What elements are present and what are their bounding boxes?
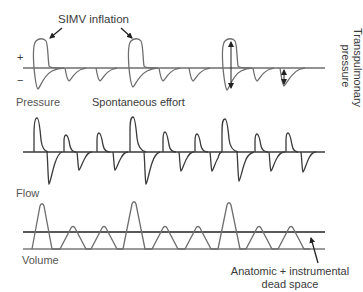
dead-space-pointer-arrow [311,238,318,263]
flow-trace [23,117,325,184]
volume-label: Volume [22,255,59,266]
pressure-label: Pressure [16,97,60,108]
spontaneous-dip-3 [159,68,180,81]
ventilator-waveform-diagram [0,0,363,292]
transpulmonary-label-line2: pressure [340,28,352,104]
dead-space-label: Anatomic + instrumental dead space [230,265,350,290]
dead-space-label-line1: Anatomic + instrumental [230,265,350,278]
simv-inflation-label: SIMV inflation [58,14,129,26]
spontaneous-dip-4 [189,68,210,81]
minus-sign-label: − [17,75,23,86]
spontaneous-dip-5 [253,68,274,81]
plus-sign-label: + [17,52,23,63]
spontaneous-effort-label: Spontaneous effort [92,97,185,108]
volume-trace [23,202,325,249]
transpulmonary-label-line1: Transpulmonary [351,28,363,104]
simv-inflation-1 [33,39,60,68]
transpulmonary-pressure-label: Transpulmonary pressure [333,28,363,104]
flow-label: Flow [16,188,39,199]
dead-space-label-line2: dead space [230,278,350,291]
spontaneous-dip-1 [65,68,86,81]
simv-inflation-2 [128,39,156,68]
spontaneous-dip-2 [96,68,117,81]
simv-inflation-3-dip [223,68,252,90]
simv-pointer-arrows [50,28,132,38]
simv-inflation-3 [222,39,250,68]
simv-inflation-2-dip [129,68,158,87]
simv-inflation-1-dip [34,68,64,89]
pressure-trace [23,39,325,90]
